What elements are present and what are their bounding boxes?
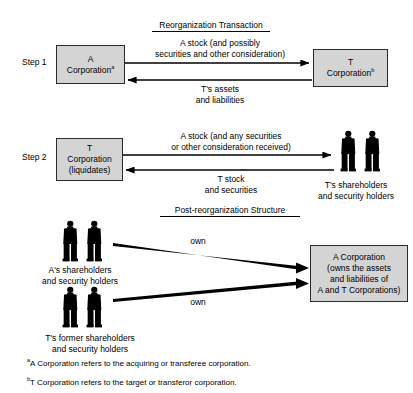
footnote-a-text: A Corporation refers to the acquiring or… xyxy=(30,359,251,368)
post-reorg-corp-line4: A and T Corporations) xyxy=(318,285,401,296)
person-silhouette-icon xyxy=(63,287,78,328)
step1-t-corporation-box: T Corporationb xyxy=(313,49,388,87)
step2-bottom-arrow-label-line2: and securities xyxy=(168,185,294,196)
person-silhouette-icon xyxy=(365,131,380,172)
step2-bottom-arrow-label: T stock and securities xyxy=(168,174,294,195)
post-reorg-corp-line3: and liabilities of xyxy=(330,274,388,285)
step1-top-arrow-label-line1: A stock (and possibly xyxy=(140,38,300,49)
t-shareholders-caption-line1: T's shareholders xyxy=(299,180,413,191)
footnote-b-text: T Corporation refers to the target or tr… xyxy=(30,378,237,387)
step1-bottom-arrow-label-line2: and liabilities xyxy=(158,95,282,106)
step-2-label: Step 2 xyxy=(22,152,47,162)
step1-a-corporation-box: A Corporationa xyxy=(56,45,125,84)
footnote-marker-b: b xyxy=(371,67,374,73)
diagram-page: Reorganization Transaction Step 1 A Corp… xyxy=(0,0,413,393)
step1-bottom-arrow-label-line1: T's assets xyxy=(158,84,282,95)
step1-a-corp-line1: A xyxy=(88,54,94,65)
post-reorganization-structure-heading: Post-reorganization Structure xyxy=(160,205,300,217)
t-former-shareholders-caption-line2: and security holders xyxy=(10,344,170,355)
step2-bottom-arrow-label-line1: T stock xyxy=(168,174,294,185)
step2-t-corp-line3: (liquidates) xyxy=(69,165,111,176)
post-reorg-arrow-a-owns xyxy=(113,243,309,274)
person-silhouette-icon xyxy=(87,287,102,328)
step1-top-arrow-label-line2: securities and other consideration) xyxy=(140,49,300,60)
post-reorg-a-corporation-box: A Corporation (owns the assets and liabi… xyxy=(310,245,408,302)
a-shareholders-caption-line1: A's shareholders xyxy=(18,265,142,276)
person-silhouette-icon xyxy=(63,221,78,262)
step1-top-arrow-label: A stock (and possibly securities and oth… xyxy=(140,38,300,59)
step2-t-corp-line1: T xyxy=(87,143,92,154)
post-reorg-corp-line1: A Corporation xyxy=(333,252,385,263)
footnote-a: aA Corporation refers to the acquiring o… xyxy=(27,358,251,369)
step1-a-corp-line2: Corporationa xyxy=(67,65,114,76)
footnote-marker-a: a xyxy=(111,64,114,70)
t-shareholders-caption-line2: and security holders xyxy=(299,191,413,202)
footnote-b: bT Corporation refers to the target or t… xyxy=(27,377,237,388)
post-reorg-corp-line2: (owns the assets xyxy=(327,263,391,274)
t-shareholders-caption: T's shareholders and security holders xyxy=(299,180,413,202)
person-silhouette-icon xyxy=(87,221,102,262)
step2-t-corporation-box: T Corporation (liquidates) xyxy=(56,138,123,181)
step-1-label: Step 1 xyxy=(22,57,47,67)
step1-t-corp-line1: T xyxy=(348,57,353,68)
step1-bottom-arrow-label: T's assets and liabilities xyxy=(158,84,282,105)
step1-t-corp-line2: Corporationb xyxy=(327,68,374,79)
step2-t-corp-line2: Corporation xyxy=(67,154,111,165)
t-former-shareholders-caption-line1: T's former shareholders xyxy=(10,333,170,344)
step2-top-arrow-label: A stock (and any securities or other con… xyxy=(146,131,316,152)
a-shareholders-caption: A's shareholders and security holders xyxy=(18,265,142,287)
t-former-shareholders-caption: T's former shareholders and security hol… xyxy=(10,333,170,355)
a-shareholders-caption-line2: and security holders xyxy=(18,276,142,287)
own-label-a: own xyxy=(178,236,218,247)
step2-top-arrow-label-line2: or other consideration received) xyxy=(146,142,316,153)
own-label-t: own xyxy=(178,297,218,308)
person-silhouette-icon xyxy=(341,131,356,172)
step2-top-arrow-label-line1: A stock (and any securities xyxy=(146,131,316,142)
reorganization-transaction-heading: Reorganization Transaction xyxy=(152,20,270,32)
